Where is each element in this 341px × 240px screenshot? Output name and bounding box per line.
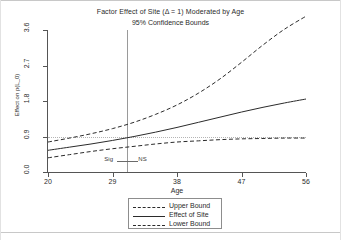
legend-swatch-solid-icon — [133, 216, 165, 217]
figure-border-left — [0, 0, 1, 240]
legend-label: Effect of Site — [169, 211, 209, 218]
y-tick-mark — [43, 137, 47, 138]
curve-layer — [48, 30, 306, 172]
x-tick-mark — [306, 173, 307, 177]
x-tick-mark — [113, 173, 114, 177]
y-tick-label: 0.0 — [0, 166, 32, 173]
legend-label: Lower Bound — [169, 220, 210, 227]
x-tick-label: 56 — [291, 178, 321, 185]
chart-title: Factor Effect of Site (Δ = 1) Moderated … — [0, 8, 341, 15]
legend-label: Upper Bound — [169, 202, 210, 209]
chart-subtitle: 95% Confidence Bounds — [0, 19, 341, 26]
y-tick-mark — [43, 66, 47, 67]
series-line-upper-bound — [48, 16, 306, 142]
y-tick-mark — [43, 101, 47, 102]
chart-legend: Upper BoundEffect of SiteLower Bound — [128, 198, 222, 229]
y-tick-mark — [43, 30, 47, 31]
y-tick-label: 2.7 — [0, 60, 32, 67]
y-tick-label: 3.6 — [0, 24, 32, 31]
significant-region-label: Sig — [104, 156, 113, 162]
x-tick-label: 29 — [98, 178, 128, 185]
x-tick-label: 20 — [33, 178, 63, 185]
legend-swatch-dashed-icon — [133, 225, 165, 226]
not-significant-region-label: NS — [138, 156, 146, 162]
x-tick-mark — [48, 173, 49, 177]
x-tick-mark — [242, 173, 243, 177]
series-line-lower-bound — [48, 138, 306, 158]
x-tick-label: 38 — [162, 178, 192, 185]
figure-border-top — [0, 0, 341, 1]
y-tick-mark — [43, 172, 47, 173]
legend-item[interactable]: Lower Bound — [133, 221, 219, 230]
chart-figure: Factor Effect of Site (Δ = 1) Moderated … — [0, 0, 341, 240]
x-tick-label: 47 — [227, 178, 257, 185]
figure-border-bottom — [0, 232, 341, 233]
legend-swatch-dashed-icon — [133, 207, 165, 208]
plot-area — [48, 30, 306, 172]
y-tick-label: 0.9 — [0, 131, 32, 138]
x-axis-title: Age — [48, 187, 306, 194]
x-tick-mark — [177, 173, 178, 177]
series-line-effect-of-site — [48, 99, 306, 150]
y-tick-label: 1.8 — [0, 95, 32, 102]
significance-connector-line — [117, 161, 138, 162]
